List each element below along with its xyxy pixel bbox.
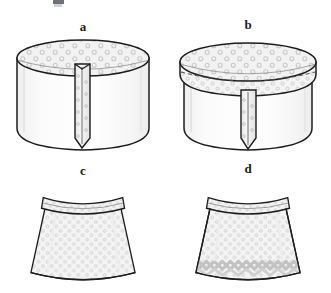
panel-a: a <box>0 18 166 158</box>
panel-d-illustration <box>165 180 331 293</box>
panel-b-label: b <box>165 18 331 31</box>
panel-b: b <box>165 16 331 158</box>
panel-c-illustration <box>0 180 166 293</box>
figure-sheet: a <box>0 0 331 293</box>
cropped-text-artifact-shadow <box>54 4 62 7</box>
panel-b-illustration <box>165 36 331 158</box>
panel-c: c <box>0 162 166 293</box>
panel-d: d <box>165 160 331 293</box>
panel-c-label: c <box>0 164 166 177</box>
patterned-ellipse-top <box>180 43 316 81</box>
panel-a-illustration <box>0 36 166 158</box>
panel-d-label: d <box>165 162 331 175</box>
panel-a-label: a <box>0 20 166 33</box>
